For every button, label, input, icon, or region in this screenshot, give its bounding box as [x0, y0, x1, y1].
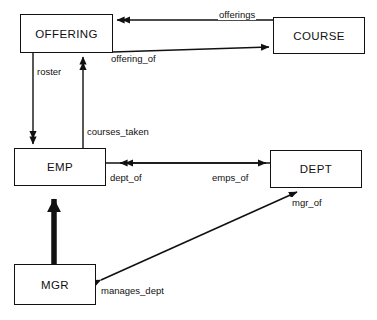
- diagram-canvas: OFFERING COURSE EMP DEPT MGR offerings o…: [0, 0, 377, 320]
- entity-label-offering: OFFERING: [35, 28, 98, 40]
- edge-label-offerings: offerings: [218, 9, 256, 20]
- edge-label-offering-of: offering_of: [110, 53, 157, 64]
- entity-label-mgr: MGR: [41, 279, 69, 291]
- edge-offering-of: [113, 47, 269, 52]
- edge-mgr-of-manages-dept: [101, 192, 297, 280]
- entity-box-offering[interactable]: OFFERING: [20, 14, 113, 53]
- edge-label-roster: roster: [36, 66, 62, 77]
- edge-label-manages-dept: manages_dept: [100, 285, 165, 296]
- entity-box-dept[interactable]: DEPT: [270, 150, 362, 188]
- edge-label-courses-taken: courses_taken: [86, 126, 150, 137]
- entity-label-emp: EMP: [47, 161, 73, 173]
- entity-box-mgr[interactable]: MGR: [14, 264, 96, 305]
- entity-box-emp[interactable]: EMP: [14, 148, 106, 186]
- entity-label-dept: DEPT: [300, 163, 332, 175]
- edge-label-mgr-of: mgr_of: [291, 197, 323, 208]
- entity-box-course[interactable]: COURSE: [273, 17, 365, 54]
- edge-label-dept-of: dept_of: [109, 172, 143, 183]
- edge-label-emps-of: emps_of: [211, 172, 249, 183]
- entity-label-course: COURSE: [293, 30, 345, 42]
